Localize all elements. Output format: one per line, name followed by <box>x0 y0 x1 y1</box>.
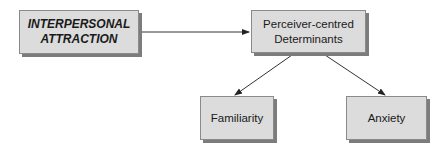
node-label-line2: Determinants <box>263 32 354 47</box>
node-label-line1: Perceiver-centred <box>263 17 354 32</box>
node-anxiety: Anxiety <box>346 96 427 140</box>
node-familiarity: Familiarity <box>200 96 274 140</box>
node-label: Familiarity <box>211 111 263 126</box>
node-label-line2: ATTRACTION <box>28 32 131 47</box>
edge-determinants-to-familiarity <box>235 55 292 95</box>
node-label: Anxiety <box>368 111 406 126</box>
node-interpersonal-attraction: INTERPERSONAL ATTRACTION <box>19 10 139 54</box>
node-perceiver-centred-determinants: Perceiver-centred Determinants <box>251 10 366 53</box>
edge-determinants-to-anxiety <box>325 55 385 95</box>
node-label-line1: INTERPERSONAL <box>28 17 131 32</box>
